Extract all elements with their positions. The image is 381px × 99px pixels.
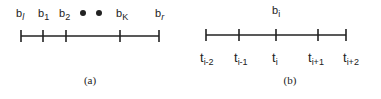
label-b2: b2: [59, 7, 70, 22]
ellipsis-dot-2: [96, 10, 102, 16]
label-t-i+2: ti+2: [343, 50, 359, 67]
label-br: br: [155, 7, 165, 22]
panel-b: bi ti-2 ti-1 ti ti+1 ti+2 (b): [200, 4, 359, 87]
label-bi: bi: [272, 4, 280, 19]
ellipsis-dot-1: [80, 10, 86, 16]
label-t-i-2: ti-2: [200, 50, 214, 67]
label-t-i-1: ti-1: [234, 50, 248, 67]
label-t-i+1: ti+1: [308, 50, 324, 67]
label-b1: b1: [38, 7, 49, 22]
caption-a: (a): [84, 74, 97, 87]
caption-b: (b): [284, 74, 297, 87]
label-bl: bl: [16, 7, 25, 22]
diagram-canvas: bl b1 b2 bK br (a) bi ti-2 ti-1 ti ti+1 …: [0, 0, 381, 99]
panel-a: bl b1 b2 bK br (a): [16, 7, 165, 87]
label-t-i: ti: [272, 50, 278, 67]
label-bk: bK: [116, 7, 128, 22]
